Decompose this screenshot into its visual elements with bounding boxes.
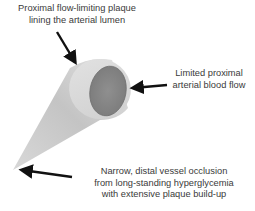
arrow-distal xyxy=(22,170,72,177)
arrow-plaque xyxy=(57,32,75,62)
arrow-blood-flow xyxy=(133,85,167,88)
label-blood-flow: Limited proximal arterial blood flow xyxy=(164,68,254,91)
vessel-diagram: Proximal flow-limiting plaque lining the… xyxy=(0,0,255,211)
label-distal-occlusion: Narrow, distal vessel occlusion from lon… xyxy=(76,166,252,201)
label-proximal-plaque: Proximal flow-limiting plaque lining the… xyxy=(2,3,152,26)
